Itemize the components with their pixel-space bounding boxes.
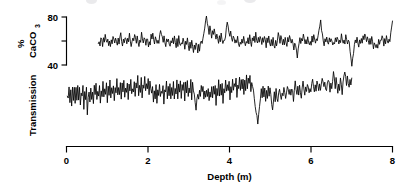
y-axis-upper: 80 40 — [47, 12, 66, 71]
y-axis-upper-title-subscript: 3 — [34, 24, 41, 28]
x-ticklabel-0: 0 — [64, 155, 69, 166]
figure-container: 80 40 CaCO 3 % Transmission 0 2 4 6 8 De… — [0, 0, 409, 183]
chart-plot-area: 80 40 CaCO 3 % Transmission 0 2 4 6 8 De… — [0, 0, 409, 183]
x-axis: 0 2 4 6 8 Depth (m) — [64, 147, 395, 183]
y-ticklabel-80: 80 — [47, 12, 58, 23]
y-axis-upper-title: CaCO — [27, 32, 38, 58]
x-ticklabel-4: 4 — [227, 155, 233, 166]
x-ticklabel-2: 2 — [145, 155, 150, 166]
series-line-caco3 — [98, 16, 392, 66]
x-ticklabel-6: 6 — [308, 155, 313, 166]
y-axis-upper-unit-percent: % — [15, 39, 26, 48]
y-axis-upper-title-group: CaCO 3 — [27, 24, 41, 58]
x-axis-title: Depth (m) — [207, 171, 251, 182]
series-line-transmission — [67, 72, 351, 124]
x-ticklabel-8: 8 — [390, 155, 395, 166]
y-axis-lower-title: Transmission — [27, 75, 38, 136]
y-ticklabel-40: 40 — [47, 60, 58, 71]
